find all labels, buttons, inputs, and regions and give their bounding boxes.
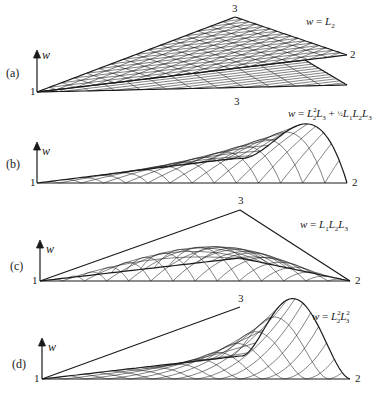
panel-d-surface-edge-31 [42,356,240,379]
panel-a-plane-mesh [74,48,326,78]
panel-b-surface-mesh [281,133,324,183]
panel-a-base-edge-23 [305,60,347,85]
w-axis-arrow-b-head [34,142,41,150]
panel-d-surface-mesh [306,359,334,379]
w-axis-arrow-c-head [37,240,44,248]
panel-a-plane-mesh [49,53,340,88]
vertex-1-a: 1 [30,85,36,97]
panel-d-surface-mesh [169,359,240,379]
axis-label-w-c: w [46,242,54,257]
equation-a: w = L2 [306,15,335,30]
panel-c-surface-mesh [154,250,217,282]
equation-c: w = L1L2L3 [300,218,348,233]
panel-d-surface-mesh [284,343,326,379]
axis-label-w-b: w [42,144,50,159]
panel-d-surface-mesh [240,313,311,379]
panel-b-surface-mesh [194,146,281,183]
panel-d-surface-mesh [174,300,287,379]
vertex-2-a: 2 [350,48,356,60]
panel-label-c: (c) [10,259,23,274]
vertex-1-b: 1 [30,176,36,188]
equation-d: w = L22L23 [312,309,349,325]
panel-c-surface-edge-23 [240,258,350,281]
panel-c-surface-mesh [169,247,240,281]
vertex-3-a: 3 [232,2,238,14]
panel-b-surface-mesh [103,151,260,183]
panel-label-d: (d) [12,357,26,372]
w-axis-arrow-d-head [39,338,46,346]
panel-b-surface-mesh [236,124,307,183]
panel-c-surface-mesh [226,257,328,281]
vertex-3-c: 3 [238,194,244,206]
panel-d-surface-mesh [198,343,284,379]
axis-label-w-d: w [48,340,56,355]
shape-function-figure [0,0,380,396]
equation-b: w = L22L3 + ½L1L2L3 [288,106,372,122]
panel-d-surface-mesh [328,373,342,380]
panel-a-base-mesh [104,84,115,90]
vertex-1-c: 1 [32,274,38,286]
panel-b-surface-mesh [94,175,126,183]
panel-label-a: (a) [6,66,19,81]
panel-b-surface-mesh [108,173,147,183]
axis-label-w-a: w [42,48,50,63]
vertex-3-b: 3 [234,95,240,107]
vertex-2-d: 2 [355,372,361,384]
panel-d-surface-mesh [218,303,303,379]
panel-c-surface-mesh [217,257,303,281]
vertex-2-c: 2 [355,274,361,286]
panel-c-surface-mesh [173,250,287,282]
vertex-2-b: 2 [352,176,358,188]
panel-b-surface-mesh [325,160,339,183]
panel-b-surface-edge-31 [37,158,237,183]
panel-label-b: (b) [6,157,20,172]
vertex-3-d: 3 [238,292,244,304]
w-axis-arrow-a-head [34,50,41,58]
vertex-1-d: 1 [34,372,40,384]
panel-d-surface-mesh [262,327,319,379]
